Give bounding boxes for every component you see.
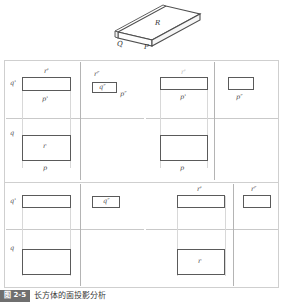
panel-tl-top-view [22, 135, 71, 161]
panel-br-label-r-dprime: r″ [251, 186, 257, 193]
rectangular-prism-pictorial: R Q P [108, 2, 208, 54]
panel-br-side-view [243, 195, 271, 208]
panel-tr-label-p-prime: p' [180, 94, 186, 101]
panel-tl-label-q: q [10, 130, 14, 137]
panel-tr-label-p: p [180, 165, 184, 172]
panel-bl-label-q: q [10, 245, 14, 252]
figure-caption-text: 长方体的面投影分析 [34, 290, 106, 301]
panel-br-projector-right [225, 196, 226, 276]
panel-bl-label-q-dprime: q″ [103, 198, 110, 205]
figure-number-badge: 图 2-5 [0, 290, 30, 302]
prism-face-label-q: Q [117, 40, 123, 48]
panel-tl-label-r-dprime: r″ [94, 71, 100, 78]
prism-face-label-p: P [144, 43, 149, 51]
panel-tr-axis-horizontal [146, 118, 278, 119]
panel-tr-label-r-prime: r' [181, 69, 186, 76]
panel-tr-top-view [160, 135, 208, 161]
panel-bottom-right: r' r r″ [144, 182, 279, 288]
panel-br-label-r: r [198, 258, 201, 265]
panel-tl-label-r: r [43, 143, 46, 150]
panel-bl-axis-vertical [80, 184, 81, 286]
panel-br-front-view [177, 195, 225, 208]
prism-svg [108, 2, 208, 54]
projection-grid: r' q' p' q r p r″ q″ p″ r' p' p [4, 60, 279, 288]
panel-tl-label-p-dprime: p″ [120, 91, 127, 98]
panel-bottom-left: q' q q″ [4, 182, 144, 288]
panel-bl-axis-horizontal [6, 229, 144, 230]
panel-tl-label-p-prime: p' [42, 96, 48, 103]
panel-tl-axis-vertical [80, 62, 81, 180]
panel-br-label-r-prime: r' [197, 186, 202, 193]
panel-top-right: r' p' p p″ [144, 60, 279, 182]
panel-tl-axis-horizontal [6, 118, 144, 119]
panel-br-axis-vertical [233, 184, 234, 286]
panel-tr-axis-vertical [214, 62, 215, 180]
panel-br-axis-horizontal [146, 229, 278, 230]
panel-bl-front-view [22, 195, 71, 208]
panel-tr-front-view [160, 77, 208, 90]
panel-tl-label-p: p [43, 165, 47, 172]
panel-tl-label-q-dprime: q″ [99, 84, 106, 91]
prism-left-face [115, 31, 118, 38]
panel-top-left: r' q' p' q r p r″ q″ p″ [4, 60, 144, 182]
panel-tl-label-r-prime: r' [44, 68, 49, 75]
prism-back-edge [163, 5, 166, 6]
panel-tl-label-q-prime: q' [10, 80, 16, 87]
panel-bl-top-view [22, 249, 71, 275]
panel-tr-side-view [228, 77, 254, 90]
panel-tl-front-view [22, 77, 71, 91]
panel-bl-label-q-prime: q' [10, 198, 16, 205]
figure-root: R Q P r' q' p' q r p [0, 0, 283, 304]
panel-tr-label-p-dprime: p″ [236, 94, 243, 101]
prism-face-label-r: R [155, 19, 160, 27]
figure-caption: 图 2-5 长方体的面投影分析 [0, 290, 283, 304]
